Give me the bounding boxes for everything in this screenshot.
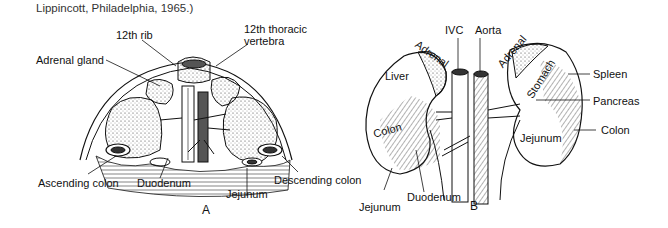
panel-b-drawing bbox=[366, 38, 596, 204]
panel-letter-a: A bbox=[202, 203, 210, 217]
label-jejunum-a: Jejunum bbox=[226, 188, 268, 200]
label-duodenum-b: Duodenum bbox=[407, 191, 461, 203]
label-spleen: Spleen bbox=[593, 68, 627, 80]
label-vertebra-line1: 12th thoracic bbox=[244, 23, 307, 35]
aorta-a bbox=[198, 92, 208, 162]
panel-a-drawing bbox=[80, 40, 298, 197]
anatomy-illustration bbox=[0, 0, 668, 228]
label-liver: Liver bbox=[385, 70, 409, 82]
ivc-b bbox=[452, 72, 468, 202]
label-adrenal-gland: Adrenal gland bbox=[36, 54, 104, 66]
label-duodenum-a: Duodenum bbox=[137, 177, 191, 189]
label-descending-colon: Descending colon bbox=[274, 174, 361, 186]
label-jejunum-bottom: Jejunum bbox=[359, 201, 401, 213]
label-aorta: Aorta bbox=[475, 24, 501, 36]
label-ascending-colon: Ascending colon bbox=[38, 177, 119, 189]
label-colon-left-kidney: Colon bbox=[601, 124, 630, 136]
label-ivc: IVC bbox=[445, 24, 463, 36]
label-vertebra-line2: vertebra bbox=[244, 35, 284, 47]
label-12th-rib: 12th rib bbox=[116, 29, 153, 41]
label-jejunum-b: Jejunum bbox=[520, 132, 562, 144]
aorta-b bbox=[474, 74, 488, 204]
label-pancreas: Pancreas bbox=[593, 95, 639, 107]
panel-letter-b: B bbox=[470, 199, 478, 213]
